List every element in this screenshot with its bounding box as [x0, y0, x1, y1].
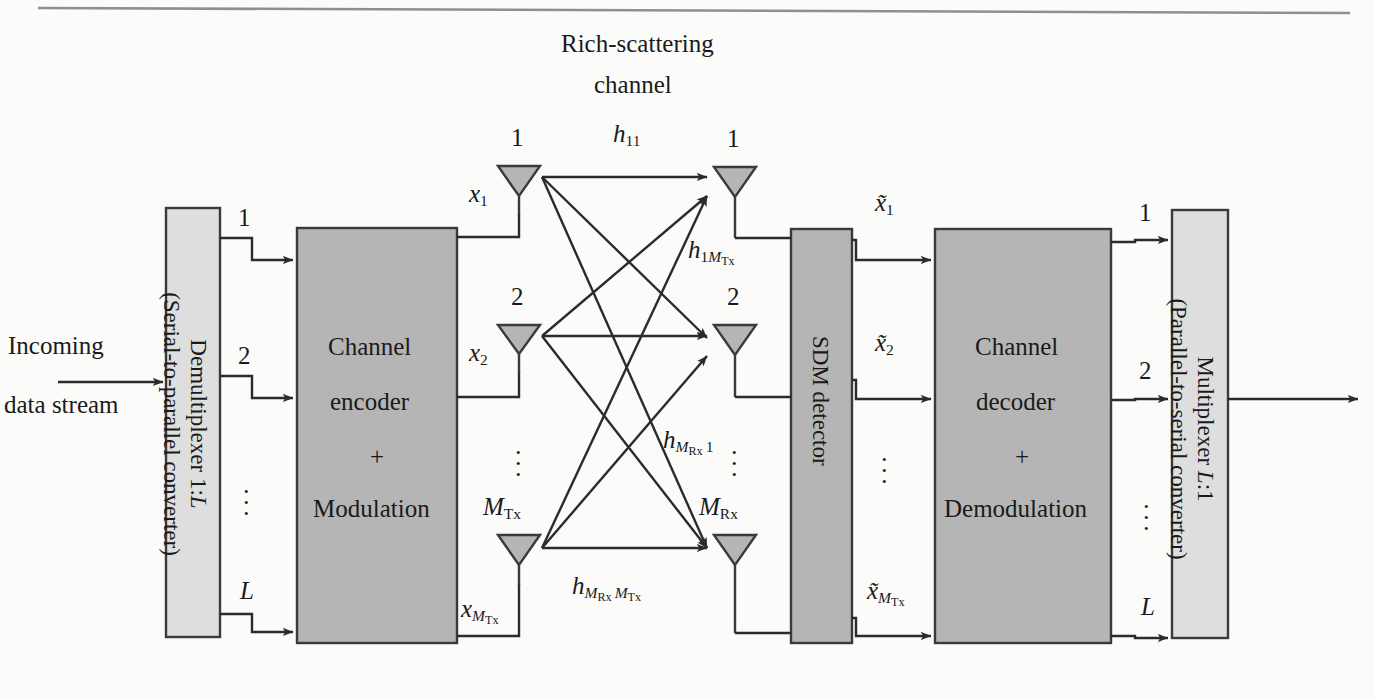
decoder-line2: decoder	[976, 389, 1055, 414]
channel-title-line1: Rich-scattering	[561, 31, 714, 56]
figure-canvas: Rich-scattering channel Incoming data st…	[0, 0, 1374, 698]
page-rule	[38, 8, 1350, 13]
tx-antenna-index-2: 2	[511, 284, 524, 309]
path-hMRx1	[542, 177, 707, 548]
channel-label-hMRx1: hMRx 1	[663, 427, 713, 458]
demux-output-L: L	[240, 578, 254, 603]
demux-line2: (Serial-to-parallel converter)	[159, 292, 184, 556]
tx-antenna-index-1: 1	[511, 125, 524, 150]
sdm-to-decoder-arrows	[852, 240, 931, 636]
incoming-label-line2: data stream	[4, 392, 119, 417]
channel-mesh-arrows	[542, 177, 707, 548]
decoder-line4: Demodulation	[944, 496, 1087, 521]
decoder-line3: +	[1015, 444, 1029, 469]
rx-antenna-1	[714, 167, 756, 238]
rx-signal-xt1: x̃1	[875, 190, 894, 218]
channel-encoder-block	[297, 228, 457, 643]
rx-signal-ellipsis: ...	[881, 448, 888, 481]
channel-label-h11: h11	[613, 121, 640, 149]
rx-antenna-ellipsis: ...	[731, 441, 738, 474]
mux-line2: (Parallel-to-serial converter)	[1166, 298, 1191, 559]
encoder-line2: encoder	[330, 389, 409, 414]
rx-to-sdm-lines	[735, 238, 791, 633]
tx-antenna-index-mtx: MTx	[483, 494, 521, 522]
decoder-output-2: 2	[1139, 358, 1152, 383]
tx-signal-xmtx: xMTx	[461, 596, 498, 627]
tx-signal-x1: x1	[469, 181, 488, 209]
rx-signal-xtmtx: x̃MTx	[867, 578, 904, 609]
sdm-detector-caption: SDM detector	[807, 336, 834, 536]
decoder-to-mux-arrows	[1111, 240, 1168, 638]
tx-antenna-1	[498, 166, 540, 215]
decoder-output-1: 1	[1139, 200, 1152, 225]
channel-label-h1MTx: h1MTx	[688, 237, 735, 268]
encoder-line1: Channel	[328, 334, 411, 359]
tx-antenna-2	[498, 325, 540, 373]
rx-signal-xt2: x̃2	[875, 330, 894, 358]
demux-output-2: 2	[238, 343, 251, 368]
encoder-to-tx-lines	[457, 214, 519, 636]
incoming-label-line1: Incoming	[8, 333, 104, 358]
demux-output-ellipsis: ...	[243, 480, 250, 513]
demux-line1: Demultiplexer 1:L	[186, 339, 211, 508]
multiplexer-caption: Multiplexer L:1 (Parallel-to-serial conv…	[1165, 244, 1219, 614]
mux-line1: Multiplexer L:1	[1193, 356, 1218, 501]
channel-title-line2: channel	[594, 72, 672, 97]
demux-to-encoder-arrows	[220, 238, 293, 632]
decoder-output-ellipsis: ...	[1143, 495, 1150, 528]
channel-decoder-block	[935, 229, 1111, 643]
tx-antenna-ellipsis: ...	[515, 441, 522, 474]
demultiplexer-caption: Demultiplexer 1:L (Serial-to-parallel co…	[158, 234, 212, 614]
encoder-line4: Modulation	[313, 496, 430, 521]
rx-antenna-mrx	[714, 535, 756, 633]
rx-antenna-index-mrx: MRx	[699, 494, 738, 522]
channel-label-hMRxMTx: hMRx MTx	[572, 573, 641, 604]
tx-signal-x2: x2	[469, 340, 488, 368]
decoder-line1: Channel	[975, 334, 1058, 359]
tx-antenna-mtx	[498, 535, 540, 585]
demux-output-1: 1	[238, 205, 251, 230]
decoder-output-L: L	[1141, 594, 1155, 619]
rx-antenna-index-1: 1	[727, 126, 740, 151]
rx-antenna-2	[714, 325, 756, 397]
rx-antenna-index-2: 2	[727, 284, 740, 309]
encoder-line3: +	[370, 444, 384, 469]
